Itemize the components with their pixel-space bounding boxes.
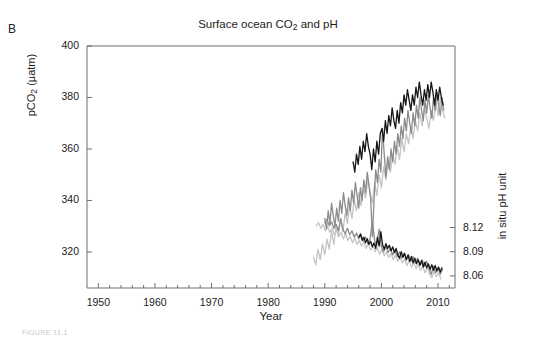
x-tick-label: 1990: [303, 296, 347, 308]
plot-area: [0, 0, 536, 341]
y2-tick-label: 8.09: [463, 245, 497, 257]
figure-panel: B Surface ocean CO2 and pH pCO2 (µatm) i…: [0, 0, 536, 341]
x-tick-label: 2010: [416, 296, 460, 308]
figure-caption: FIGURE 11.1: [22, 329, 68, 336]
y2-tick-label: 8.12: [463, 221, 497, 233]
y-tick-label: 360: [45, 142, 79, 154]
x-tick-label: 1960: [133, 296, 177, 308]
x-tick-label: 2000: [359, 296, 403, 308]
x-tick-label: 1970: [190, 296, 234, 308]
y-tick-label: 340: [45, 193, 79, 205]
x-tick-label: 1950: [76, 296, 120, 308]
y-tick-label: 380: [45, 90, 79, 102]
y2-tick-label: 8.06: [463, 269, 497, 281]
y-tick-label: 400: [45, 39, 79, 51]
data-series-line: [313, 97, 444, 264]
data-series-line: [359, 232, 442, 272]
x-tick-label: 1980: [246, 296, 290, 308]
y-tick-label: 320: [45, 245, 79, 257]
